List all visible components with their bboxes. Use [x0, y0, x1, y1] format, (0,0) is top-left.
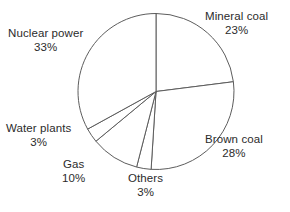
pie-label-value: 33%: [8, 41, 83, 55]
pie-label-name: Others: [128, 172, 163, 186]
pie-label-name: Water plants: [6, 122, 71, 136]
pie-label-value: 10%: [62, 172, 85, 186]
pie-label-name: Gas: [62, 158, 85, 172]
pie-label-name: Mineral coal: [205, 10, 268, 24]
pie-label-value: 3%: [128, 186, 163, 200]
pie-label-others: Others3%: [128, 172, 163, 199]
pie-label-value: 23%: [205, 24, 268, 38]
pie-label-name: Brown coal: [205, 133, 263, 147]
pie-label-name: Nuclear power: [8, 27, 83, 41]
pie-label-gas: Gas10%: [62, 158, 85, 185]
pie-label-value: 28%: [205, 147, 263, 161]
pie-label-mineral-coal: Mineral coal23%: [205, 10, 268, 37]
pie-label-brown-coal: Brown coal28%: [205, 133, 263, 160]
pie-label-nuclear-power: Nuclear power33%: [8, 27, 83, 54]
pie-label-value: 3%: [6, 136, 71, 150]
pie-chart: Mineral coal23%Brown coal28%Others3%Gas1…: [0, 0, 290, 212]
pie-label-water-plants: Water plants3%: [6, 122, 71, 149]
